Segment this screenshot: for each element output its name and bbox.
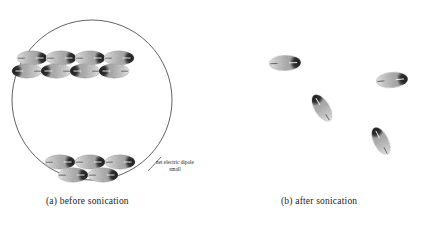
panel-a-group <box>11 20 172 182</box>
caption-panel-a: (a) before sonication <box>46 196 129 206</box>
cluster-top <box>11 51 134 78</box>
net-dipole-annotation-line1: net electric dipole <box>156 159 194 166</box>
cluster-bottom-row-1 <box>45 155 136 169</box>
figure-canvas <box>0 0 427 228</box>
particle <box>40 64 71 78</box>
panel-b-group <box>269 55 409 157</box>
cluster-top-row-1 <box>17 51 135 65</box>
cluster-bottom <box>45 155 136 182</box>
particle <box>104 51 135 65</box>
particle <box>75 51 106 65</box>
net-dipole-annotation: net electric dipole small <box>156 159 194 173</box>
net-dipole-annotation-line2: small <box>156 166 194 173</box>
particle <box>45 155 76 169</box>
caption-panel-b: (b) after sonication <box>281 196 357 206</box>
particle <box>376 71 409 89</box>
particle <box>88 168 119 182</box>
particle <box>105 155 136 169</box>
particle <box>58 168 89 182</box>
particle <box>75 155 106 169</box>
particle <box>368 124 394 157</box>
particle <box>46 51 77 65</box>
cluster-top-row-2 <box>11 64 129 78</box>
particle <box>269 55 302 71</box>
particle <box>11 64 42 78</box>
particle <box>98 64 129 78</box>
particle <box>308 91 336 125</box>
particle <box>17 51 48 65</box>
particle <box>69 64 100 78</box>
